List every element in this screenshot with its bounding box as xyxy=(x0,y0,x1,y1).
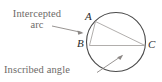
inscribed-angle-diagram: Intercepted arc Inscribed angle A B C xyxy=(0,0,162,82)
vertex-label-c: C xyxy=(148,39,155,50)
intercepted-arc-label: Intercepted arc xyxy=(6,8,68,30)
vertex-label-a: A xyxy=(85,11,92,22)
chord-ab xyxy=(90,22,96,46)
inscribed-angle-label: Inscribed angle xyxy=(4,64,70,75)
intercepted-arc-label-line2: arc xyxy=(6,19,68,30)
chord-ac xyxy=(96,22,146,46)
arrow-inscribed-angle xyxy=(97,55,123,73)
intercepted-arc-label-line1: Intercepted xyxy=(6,8,68,19)
vertex-label-b: B xyxy=(77,38,84,49)
circle-shape xyxy=(87,13,146,72)
